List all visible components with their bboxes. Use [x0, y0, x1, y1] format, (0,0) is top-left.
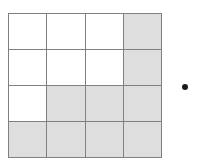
grid-cell-r1c1 — [9, 14, 46, 49]
grid-cell-r1c3 — [86, 14, 123, 49]
grid-cell-r1c4 — [124, 14, 161, 49]
grid-cell-r3c4 — [124, 86, 161, 121]
figure-root — [0, 0, 197, 168]
grid-cell-r4c4 — [124, 122, 161, 157]
grid-cell-r2c2 — [47, 50, 84, 85]
dot-marker — [182, 84, 188, 90]
grid-cell-r3c1 — [9, 86, 46, 121]
grid-cell-r3c2 — [47, 86, 84, 121]
grid-cell-r2c4 — [124, 50, 161, 85]
grid-cell-r4c1 — [9, 122, 46, 157]
grid-cell-r4c3 — [86, 122, 123, 157]
grid-cell-r2c3 — [86, 50, 123, 85]
grid-cell-r4c2 — [47, 122, 84, 157]
grid-cell-r2c1 — [9, 50, 46, 85]
grid-cell-r3c3 — [86, 86, 123, 121]
shaded-grid — [8, 13, 162, 158]
grid-cell-r1c2 — [47, 14, 84, 49]
